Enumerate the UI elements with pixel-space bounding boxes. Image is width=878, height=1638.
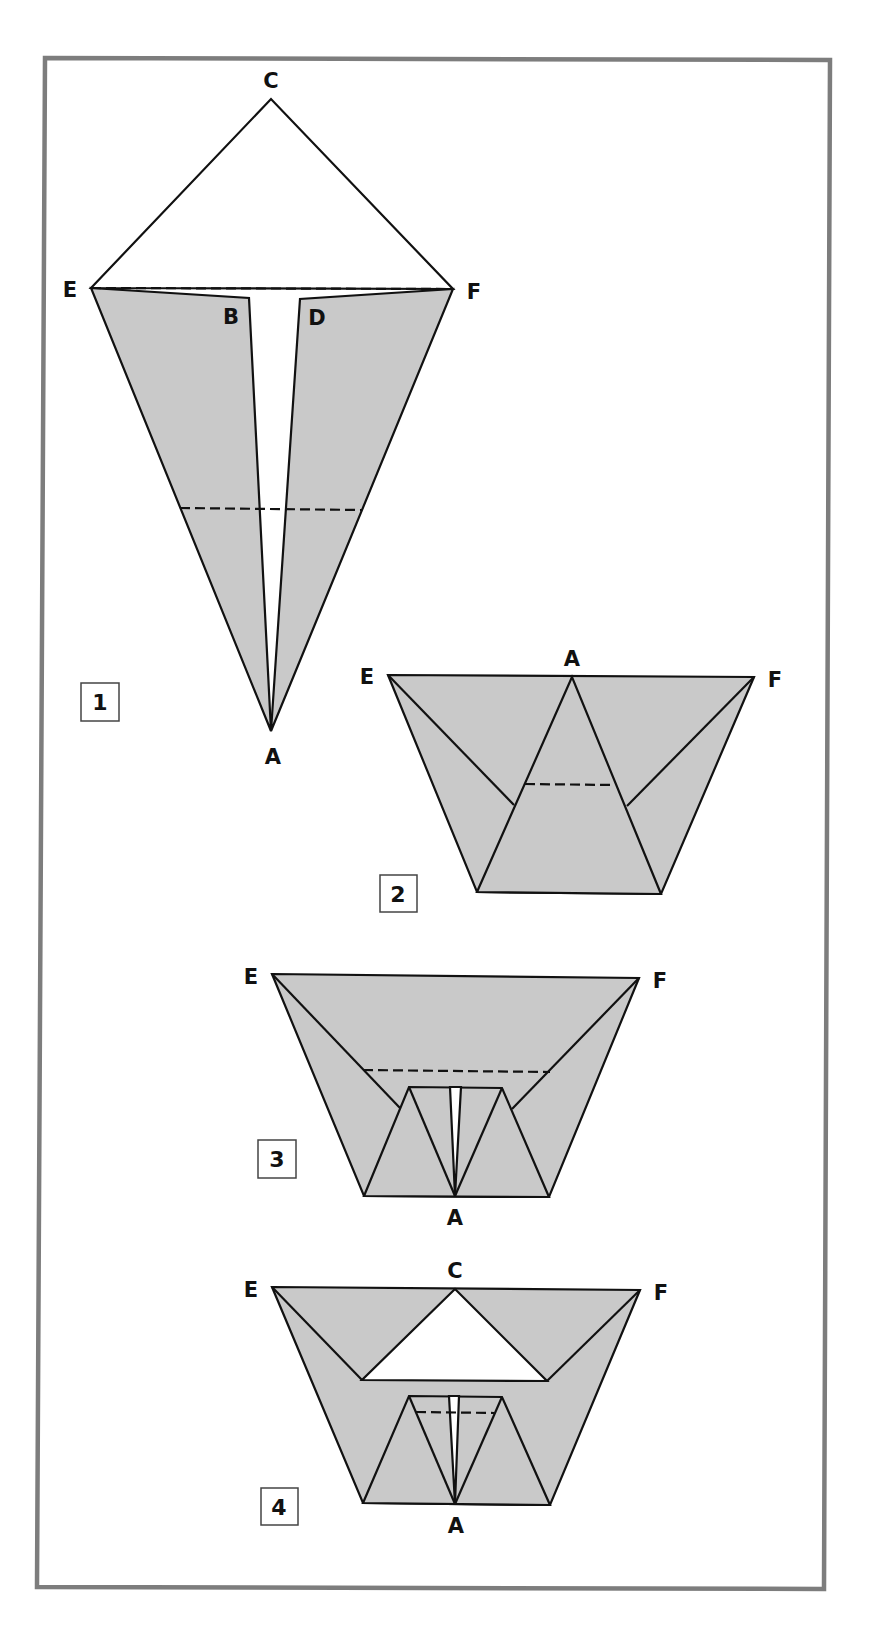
- step4-label-e: E: [244, 1278, 258, 1302]
- origami-diagram: C E F B D A 1 A E F 2 E F A 3: [0, 0, 878, 1638]
- step-2-number: 2: [390, 882, 405, 907]
- step4-label-a: A: [448, 1514, 465, 1538]
- step1-label-a: A: [265, 745, 282, 769]
- step1-top-triangle: [91, 99, 453, 289]
- step2-label-a: A: [564, 647, 581, 671]
- step-3-number: 3: [269, 1147, 284, 1172]
- step1-label-f: F: [467, 280, 481, 304]
- step1-label-c: C: [263, 69, 278, 93]
- step2-label-f: F: [768, 668, 782, 692]
- step1-fold-line-ef: [91, 288, 453, 289]
- step-4-figure: C E F A 4: [244, 1259, 668, 1538]
- step2-label-e: E: [360, 665, 374, 689]
- step3-label-a: A: [447, 1206, 464, 1230]
- step-2-figure: A E F 2: [360, 647, 782, 912]
- step3-label-e: E: [244, 965, 258, 989]
- step-3-figure: E F A 3: [244, 965, 667, 1230]
- step4-label-c: C: [447, 1259, 462, 1283]
- step4-label-f: F: [654, 1281, 668, 1305]
- step1-label-b: B: [223, 305, 239, 329]
- step3-label-f: F: [653, 969, 667, 993]
- step-1-number: 1: [92, 690, 107, 715]
- step1-label-e: E: [63, 278, 77, 302]
- step-1-figure: C E F B D A 1: [63, 69, 481, 769]
- step-4-number: 4: [271, 1495, 286, 1520]
- step1-label-d: D: [308, 306, 325, 330]
